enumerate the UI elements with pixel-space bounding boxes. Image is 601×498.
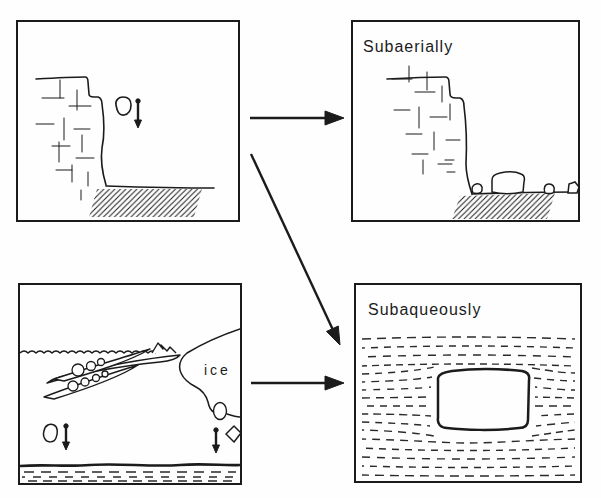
down-arrow-icon-left — [63, 424, 70, 450]
rockfall-drawing — [18, 22, 238, 220]
subaqueous-drawing: Subaqueously — [356, 285, 580, 481]
panel-subaqueous-result: Subaqueously — [354, 283, 582, 483]
cliff-outline — [36, 77, 214, 188]
berg-crest — [152, 343, 176, 353]
sinking-stone-right — [226, 426, 240, 442]
fallen-block — [492, 172, 524, 194]
fallen-pebble-1 — [472, 184, 482, 194]
falling-stone — [116, 97, 131, 115]
talus-hatch — [89, 189, 202, 217]
subaerial-drawing: Subaerially — [353, 22, 578, 220]
arrow-to-subaerial-icon — [250, 111, 344, 125]
down-arrow-icon — [135, 99, 142, 128]
fallen-rocks — [472, 172, 578, 194]
seafloor-laminations — [22, 472, 238, 481]
seafloor-line — [20, 464, 240, 466]
dropstone — [438, 369, 529, 430]
arrow-to-subaqueous-icon — [251, 376, 344, 390]
panel-label-subaqueously: Subaqueously — [368, 301, 481, 318]
ice-label: ice — [204, 362, 231, 378]
arrow-diagonal-to-subaqueous-icon — [251, 154, 340, 345]
fallen-pebble-2 — [544, 184, 554, 194]
ice-released-stone — [214, 403, 227, 420]
panel-rockfall-source — [16, 20, 240, 222]
panel-iceberg-source: ice — [18, 283, 242, 485]
panel-label-subaerially: Subaerially — [363, 38, 453, 55]
down-arrow-icon-right — [213, 428, 220, 453]
talus-hatch — [452, 193, 555, 219]
fallen-pebble-3 — [568, 182, 578, 193]
water-line — [20, 351, 156, 353]
iceberg-drawing: ice — [20, 285, 240, 483]
cliff-outline — [387, 77, 576, 194]
sinking-stone-left — [43, 424, 57, 442]
dropstone-deposition-figure: Subaerially — [0, 0, 601, 498]
panel-subaerial-result: Subaerially — [351, 20, 580, 222]
rock-joints — [36, 80, 94, 200]
